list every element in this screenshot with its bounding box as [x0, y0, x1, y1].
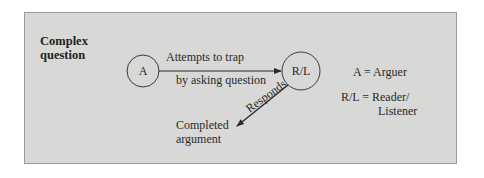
- legend-reader-listener-cont: Listener: [378, 104, 417, 118]
- diagram-canvas: Complex question A R/L Attempts to trap …: [0, 0, 484, 178]
- node-reader-listener-label: R/L: [284, 64, 318, 78]
- outcome-label: Completed argument: [176, 118, 229, 146]
- edge-trap-label-line-1: Attempts to trap: [166, 50, 244, 64]
- edge-trap-label-line-2: by asking question: [176, 73, 266, 87]
- outcome-line-1: Completed: [176, 118, 229, 132]
- legend-reader-listener: R/L = Reader/: [341, 90, 409, 104]
- outcome-line-2: argument: [176, 132, 229, 146]
- legend-arguer: A = Arguer: [353, 65, 407, 79]
- diagram-graphics: [0, 0, 484, 178]
- node-arguer-label: A: [135, 64, 151, 78]
